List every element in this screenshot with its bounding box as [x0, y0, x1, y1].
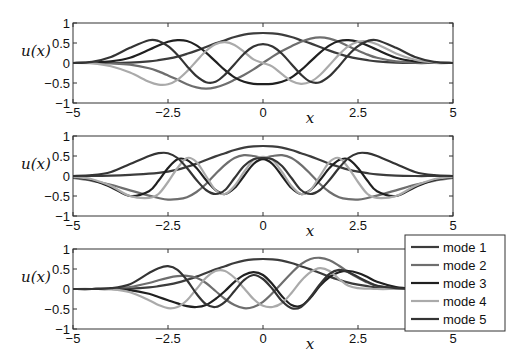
curve-mode-1: [73, 146, 453, 176]
x-tick-label: −2.5: [155, 331, 181, 346]
legend: mode 1mode 2mode 3mode 4mode 5: [405, 235, 505, 331]
x-tick-label: 0: [259, 331, 266, 346]
curve-mode-5: [73, 153, 453, 194]
curves: [73, 146, 453, 200]
legend-label: mode 5: [443, 312, 486, 327]
legend-label: mode 3: [443, 276, 486, 291]
y-tick-label: 1: [63, 16, 70, 31]
curves: [73, 258, 453, 309]
y-tick-label: 1: [63, 242, 70, 257]
figure: −5−2.502.5510.50−0.5−1u(x)x−5−2.502.5510…: [0, 0, 508, 364]
x-axis-label: x: [306, 109, 315, 127]
y-axis-label: u(x): [21, 268, 51, 286]
x-tick-label: −2.5: [155, 105, 181, 120]
y-tick-label: 0.5: [52, 36, 70, 51]
y-tick-label: 0: [63, 282, 70, 297]
x-tick-label: 0: [259, 105, 266, 120]
x-axis-label: x: [306, 335, 315, 353]
x-axis-label: x: [306, 222, 315, 240]
legend-label: mode 1: [443, 240, 486, 255]
x-tick-label: 2.5: [349, 218, 367, 233]
subplot-3: −5−2.502.5510.50−0.5−1u(x)x: [21, 242, 457, 353]
y-tick-label: 0: [63, 56, 70, 71]
y-axis-label: u(x): [21, 155, 51, 173]
y-tick-label: 1: [63, 129, 70, 144]
subplot-2: −5−2.502.5510.50−0.5−1u(x)x: [21, 129, 457, 240]
subplot-1: −5−2.502.5510.50−0.5−1u(x)x: [21, 16, 457, 127]
curves: [73, 33, 453, 89]
y-tick-label: −0.5: [44, 76, 70, 91]
y-tick-label: −0.5: [44, 302, 70, 317]
x-tick-label: 5: [449, 105, 456, 120]
x-tick-label: 0: [259, 218, 266, 233]
x-tick-label: 2.5: [349, 105, 367, 120]
legend-label: mode 4: [443, 294, 486, 309]
y-tick-label: −0.5: [44, 189, 70, 204]
curve-mode-2: [73, 155, 453, 200]
x-tick-label: 2.5: [349, 331, 367, 346]
x-tick-label: −2.5: [155, 218, 181, 233]
y-tick-label: 0.5: [52, 149, 70, 164]
y-tick-label: −1: [55, 209, 70, 224]
y-tick-label: 0: [63, 169, 70, 184]
y-tick-label: −1: [55, 96, 70, 111]
y-tick-label: 0.5: [52, 262, 70, 277]
y-axis-label: u(x): [21, 42, 51, 60]
legend-label: mode 2: [443, 258, 486, 273]
y-tick-label: −1: [55, 322, 70, 337]
x-tick-label: 5: [449, 218, 456, 233]
x-tick-label: 5: [449, 331, 456, 346]
